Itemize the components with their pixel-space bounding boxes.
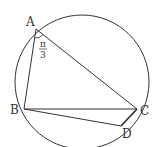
segment-ac bbox=[36, 29, 137, 109]
segment-bd bbox=[24, 109, 121, 126]
label-b: B bbox=[10, 103, 19, 117]
label-c: C bbox=[140, 104, 149, 118]
angle-denominator: 3 bbox=[40, 50, 46, 60]
label-d: D bbox=[122, 127, 132, 141]
segment-ab bbox=[24, 29, 36, 109]
label-a: A bbox=[25, 15, 35, 29]
angle-numerator: π bbox=[40, 39, 46, 49]
circle-diagram: A B C D π 3 bbox=[0, 0, 165, 147]
angle-arc-a bbox=[35, 35, 43, 38]
